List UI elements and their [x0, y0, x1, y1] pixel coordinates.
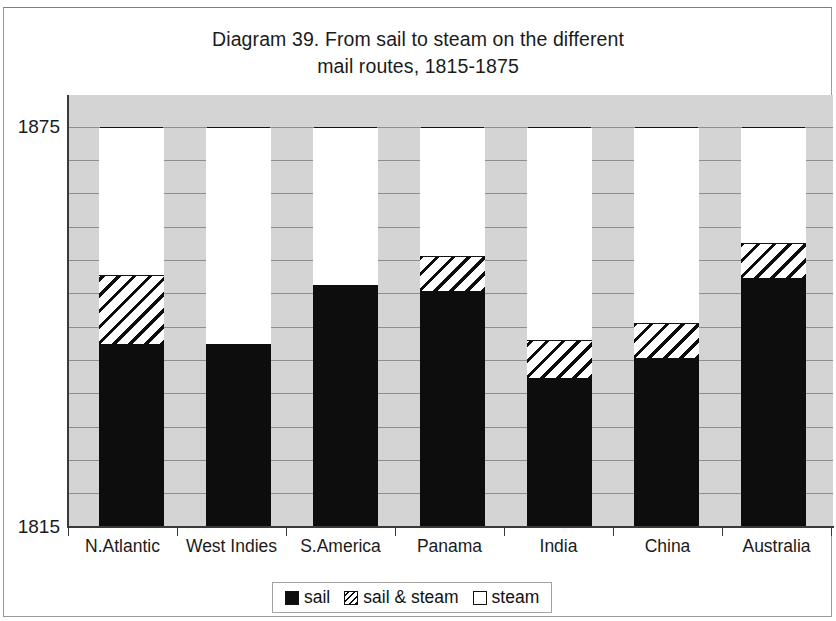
x-axis-tick	[504, 527, 505, 536]
segment-sail	[527, 378, 591, 527]
segment-steam	[206, 128, 270, 345]
x-axis-label-n-atlantic: N.Atlantic	[68, 536, 177, 557]
segment-sail	[634, 358, 698, 527]
x-axis-line	[67, 526, 834, 528]
bar-australia	[742, 127, 805, 527]
segment-steam	[420, 128, 484, 256]
x-axis-label-india: India	[504, 536, 613, 557]
x-axis-tick	[722, 527, 723, 536]
bar-panama	[421, 127, 484, 527]
legend-label-sail-and-steam: sail & steam	[363, 587, 458, 608]
x-axis-tick	[395, 527, 396, 536]
x-axis-label-panama: Panama	[395, 536, 504, 557]
bar-india	[528, 127, 591, 527]
x-axis-tick	[177, 527, 178, 536]
chart-title: Diagram 39. From sail to steam on the di…	[0, 26, 836, 80]
x-axis-label-west-indies: West Indies	[177, 536, 286, 557]
legend-label-steam: steam	[492, 587, 540, 608]
segment-steam	[527, 128, 591, 340]
bar-n-atlantic	[100, 127, 163, 527]
segment-sail	[420, 291, 484, 527]
segment-sail-and-steam	[420, 256, 484, 292]
chart-legend: sail sail & steam steam	[272, 582, 552, 613]
x-axis-tick	[613, 527, 614, 536]
y-axis-label-1815: 1815	[4, 516, 60, 538]
plot-area	[68, 95, 833, 527]
segment-sail	[206, 344, 270, 527]
legend-swatch-sail-and-steam-icon	[344, 591, 358, 605]
x-axis-label-australia: Australia	[722, 536, 831, 557]
chart-figure: Diagram 39. From sail to steam on the di…	[0, 0, 836, 621]
segment-steam	[313, 128, 377, 286]
legend-item-sail-and-steam: sail & steam	[344, 587, 458, 608]
legend-item-sail: sail	[285, 587, 330, 608]
y-axis-line	[67, 95, 69, 528]
bar-s-america	[314, 127, 377, 527]
x-axis-tick	[68, 527, 69, 536]
x-axis-label-china: China	[613, 536, 722, 557]
legend-swatch-sail-icon	[285, 591, 299, 605]
segment-sail-and-steam	[741, 243, 805, 279]
segment-steam	[741, 128, 805, 243]
x-axis-label-s-america: S.America	[286, 536, 395, 557]
legend-item-steam: steam	[473, 587, 540, 608]
y-axis-label-1875: 1875	[4, 116, 60, 138]
x-axis-tick	[286, 527, 287, 536]
bar-china	[635, 127, 698, 527]
x-axis-tick	[831, 527, 832, 536]
segment-steam	[99, 128, 163, 275]
segment-sail	[313, 285, 377, 527]
chart-title-line-2: mail routes, 1815-1875	[0, 53, 836, 80]
segment-sail	[741, 278, 805, 527]
segment-sail	[99, 344, 163, 527]
segment-sail-and-steam	[527, 340, 591, 379]
segment-steam	[634, 128, 698, 323]
segment-sail-and-steam	[634, 323, 698, 359]
legend-label-sail: sail	[304, 587, 330, 608]
bar-west-indies	[207, 127, 270, 527]
segment-sail-and-steam	[99, 275, 163, 345]
chart-title-line-1: Diagram 39. From sail to steam on the di…	[212, 28, 624, 50]
legend-swatch-steam-icon	[473, 591, 487, 605]
